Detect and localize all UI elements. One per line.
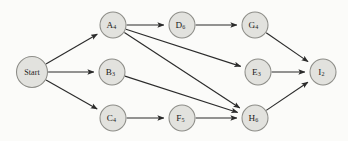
node-D[interactable]: D6 — [169, 12, 195, 38]
node-I[interactable]: I2 — [310, 59, 336, 85]
edge-start-to-A — [46, 34, 97, 64]
node-A[interactable]: A4 — [100, 12, 126, 38]
edge-start-to-C — [46, 80, 97, 109]
node-C[interactable]: C4 — [100, 105, 126, 131]
node-H[interactable]: H6 — [242, 105, 268, 131]
edge-G-to-I — [266, 33, 308, 62]
graph-canvas: StartA4D6G4B3E3I2C4F5H6 — [0, 0, 348, 141]
activity-network-diagram: StartA4D6G4B3E3I2C4F5H6 — [0, 0, 348, 141]
node-F[interactable]: F5 — [169, 105, 195, 131]
node-label-start: Start — [24, 67, 40, 76]
edge-H-to-I — [266, 82, 308, 110]
edge-A-to-H — [124, 32, 239, 108]
node-start[interactable]: Start — [17, 57, 48, 88]
node-B[interactable]: B3 — [99, 59, 125, 85]
node-E[interactable]: E3 — [245, 59, 271, 85]
node-G[interactable]: G4 — [242, 12, 268, 38]
